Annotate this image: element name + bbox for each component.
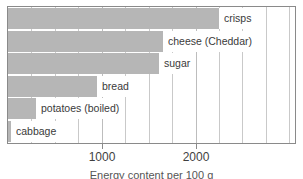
bar-row[interactable]: bread (8, 76, 295, 97)
bar-row[interactable]: cheese (Cheddar) (8, 31, 295, 52)
bar-series: crispscheese (Cheddar)sugarbreadpotatoes… (8, 7, 295, 143)
x-axis-tick-label: 1000 (89, 150, 116, 164)
bar-label: potatoes (boiled) (36, 98, 123, 119)
bar-row[interactable]: cabbage (8, 121, 295, 142)
bar-row[interactable]: sugar (8, 53, 295, 74)
x-axis-tick-mark (196, 144, 197, 149)
bar[interactable] (8, 31, 163, 52)
plot-area: crispscheese (Cheddar)sugarbreadpotatoes… (7, 6, 296, 144)
bar-label: cabbage (11, 121, 60, 142)
bar-row[interactable]: crisps (8, 8, 295, 29)
bar-label: cheese (Cheddar) (163, 31, 256, 52)
bar-row[interactable]: potatoes (boiled) (8, 98, 295, 119)
x-axis: 10002000 (7, 144, 296, 168)
x-axis-tick-label: 2000 (183, 150, 210, 164)
bar[interactable] (8, 53, 159, 74)
bar[interactable] (8, 8, 219, 29)
bar-chart-figure: crispscheese (Cheddar)sugarbreadpotatoes… (0, 0, 303, 179)
chart-caption-text: Energy content per 100 g (0, 169, 303, 179)
bar[interactable] (8, 76, 97, 97)
x-axis-tick-mark (102, 144, 103, 149)
bar[interactable] (8, 98, 36, 119)
chart-caption: Energy content per 100 g (0, 169, 303, 179)
bar-label: sugar (159, 53, 194, 74)
bar-label: crisps (219, 8, 255, 29)
bar-label: bread (97, 76, 133, 97)
